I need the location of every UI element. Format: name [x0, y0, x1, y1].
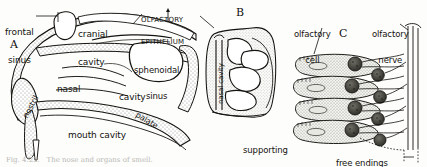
label-olfactory-cell-line1: olfactory	[294, 30, 331, 39]
label-free-endings: free endings of Vth nerve	[336, 142, 388, 167]
label-supporting-cell: supporting cell	[243, 129, 288, 167]
label-olfactory-nerve: olfactory nerve	[372, 13, 409, 74]
label-olfactory-nerve-line2: nerve	[372, 56, 409, 65]
label-sphenoidal-sinus-line1: sphenoidal	[134, 66, 179, 75]
label-cranial-cavity-line1: cranial	[78, 30, 108, 39]
label-cranial-cavity-line2: cavity	[78, 58, 108, 67]
label-free-endings-line1: free endings	[336, 159, 388, 167]
label-nasal: nasal	[57, 85, 80, 94]
panel-label-c: C	[339, 27, 347, 40]
label-cranial-cavity: cranial cavity	[78, 12, 108, 76]
label-frontal-sinus-line2: sinus	[5, 56, 34, 65]
label-frontal-sinus-line1: frontal	[5, 28, 34, 37]
figure-caption: Fig. 4.22. The nose and organs of smell.	[6, 156, 153, 167]
panel-label-b: B	[236, 6, 244, 19]
label-cavity: cavity	[119, 93, 146, 102]
label-mouth-cavity: mouth cavity	[68, 131, 126, 140]
label-olfactory-cell-line2: cell	[294, 56, 331, 65]
label-olfactory-cell: olfactory cell	[294, 13, 331, 74]
label-nasal-cavity-b: nasal cavity	[218, 63, 225, 104]
label-olfactory-epithelium-line2: EPITHELIUM	[141, 39, 184, 46]
label-supporting-cell-line1: supporting	[243, 146, 288, 155]
label-olfactory-epithelium: OLFACTORY EPITHELIUM	[141, 3, 184, 53]
label-olfactory-nerve-line1: olfactory	[372, 30, 409, 39]
panel-label-a: A	[10, 38, 18, 51]
label-olfactory-epithelium-line1: OLFACTORY	[141, 17, 184, 24]
